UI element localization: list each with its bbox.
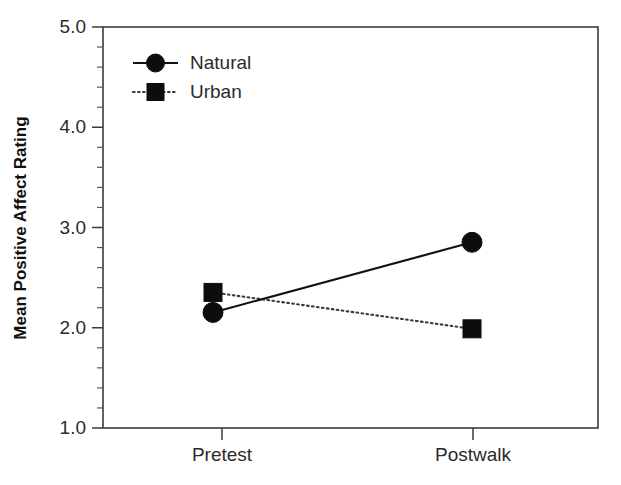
legend-marker-square-icon bbox=[147, 84, 164, 101]
ytick-label-2: 2.0 bbox=[60, 317, 86, 338]
legend-label-natural: Natural bbox=[190, 52, 251, 73]
data-point-urban-postwalk bbox=[463, 320, 481, 338]
data-point-natural-pretest bbox=[203, 302, 223, 322]
legend-marker-circle-icon bbox=[147, 54, 165, 72]
data-point-urban-pretest bbox=[204, 283, 222, 301]
legend-label-urban: Urban bbox=[190, 81, 242, 102]
series-line-urban bbox=[213, 292, 472, 328]
legend-entry-natural: Natural bbox=[133, 52, 251, 73]
ytick-label-4: 4.0 bbox=[60, 116, 86, 137]
legend: Natural Urban bbox=[133, 52, 251, 102]
y-axis-title: Mean Positive Affect Rating bbox=[11, 116, 30, 339]
x-axis-ticks bbox=[222, 428, 473, 440]
xtick-label-postwalk: Postwalk bbox=[435, 444, 512, 465]
ytick-label-5: 5.0 bbox=[60, 16, 86, 37]
data-point-natural-postwalk bbox=[462, 232, 482, 252]
xtick-label-pretest: Pretest bbox=[192, 444, 253, 465]
ytick-label-3: 3.0 bbox=[60, 217, 86, 238]
line-chart: 5.0 4.0 3.0 2.0 1.0 Mean Positive Affect… bbox=[0, 0, 621, 485]
plot-frame bbox=[103, 27, 598, 428]
series-line-natural bbox=[213, 242, 472, 312]
legend-entry-urban: Urban bbox=[133, 81, 242, 102]
figure-container: 5.0 4.0 3.0 2.0 1.0 Mean Positive Affect… bbox=[0, 0, 621, 485]
ytick-label-1: 1.0 bbox=[60, 417, 86, 438]
